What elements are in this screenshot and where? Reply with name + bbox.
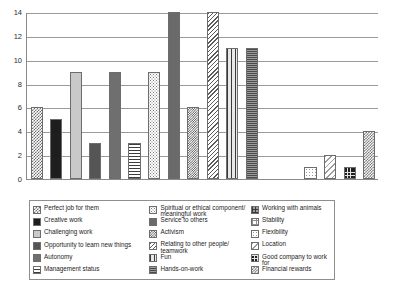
- legend-item[interactable]: Activism: [149, 228, 251, 240]
- y-axis-tick-label: 0: [18, 176, 22, 184]
- legend-item[interactable]: Relating to other people/ teamwork: [149, 240, 251, 252]
- legend-item-label: Challenging work: [44, 228, 92, 235]
- legend-item-label: Opportunity to learn new things: [44, 241, 131, 248]
- bar: [70, 72, 82, 179]
- y-axis-tick-label: 2: [18, 152, 22, 160]
- bar: [31, 107, 43, 179]
- legend-swatch-icon: [33, 218, 41, 226]
- bar: [148, 72, 160, 179]
- legend-item-label: Management status: [44, 265, 99, 272]
- legend-item[interactable]: Challenging work: [33, 228, 149, 240]
- bar: [226, 48, 238, 179]
- y-axis-tick-label: 12: [14, 33, 22, 41]
- legend-swatch-icon: [251, 218, 259, 226]
- legend-swatch-icon: [251, 242, 259, 250]
- legend-swatch-icon: [33, 242, 41, 250]
- plot-area-wrapper: 02468101214: [0, 0, 400, 196]
- legend-swatch-icon: [149, 218, 157, 226]
- legend-item[interactable]: Autonomy: [33, 253, 149, 265]
- bar: [344, 167, 356, 179]
- legend-item[interactable]: Creative work: [33, 216, 149, 228]
- y-axis: 02468101214: [0, 0, 26, 196]
- legend-column: Perfect job for themCreative workChallen…: [33, 204, 149, 277]
- legend-item[interactable]: Management status: [33, 265, 149, 277]
- y-axis-tick-label: 8: [18, 81, 22, 89]
- y-axis-tick-label: 14: [14, 9, 22, 17]
- legend-item-label: Financial rewards: [262, 265, 311, 272]
- legend-item-label: Stability: [262, 216, 284, 223]
- legend-swatch-icon: [149, 254, 157, 262]
- legend-swatch-icon: [149, 266, 157, 274]
- legend-item-label: Perfect job for them: [44, 204, 99, 211]
- legend-item[interactable]: Fun: [149, 253, 251, 265]
- bar: [207, 12, 219, 179]
- legend-swatch-icon: [33, 206, 41, 214]
- legend-item[interactable]: Working with animals: [251, 204, 332, 216]
- bar: [304, 167, 316, 179]
- legend-item[interactable]: Financial rewards: [251, 265, 332, 277]
- legend-swatch-icon: [251, 230, 259, 238]
- bar: [187, 107, 199, 179]
- y-axis-tick-label: 10: [14, 57, 22, 65]
- bar: [363, 131, 375, 179]
- bar: [109, 72, 121, 179]
- legend-item-label: Service to others: [160, 216, 207, 223]
- bar-series: [27, 13, 378, 179]
- legend-swatch-icon: [251, 254, 259, 262]
- legend-item[interactable]: Location: [251, 240, 332, 252]
- legend-item[interactable]: Hands-on-work: [149, 265, 251, 277]
- bar: [89, 143, 101, 179]
- legend-item[interactable]: Opportunity to learn new things: [33, 241, 149, 253]
- legend-swatch-icon: [149, 242, 157, 250]
- legend-item[interactable]: Flexibility: [251, 228, 332, 240]
- legend-item-label: Fun: [160, 253, 171, 260]
- bar: [128, 143, 140, 179]
- legend-swatch-icon: [33, 254, 41, 262]
- bar: [50, 119, 62, 179]
- legend-item-label: Working with animals: [262, 204, 321, 211]
- legend-item[interactable]: Stability: [251, 216, 332, 228]
- legend-column: Spiritual or ethical component/ meaningf…: [149, 204, 251, 277]
- legend-item[interactable]: Service to others: [149, 216, 251, 228]
- legend-swatch-icon: [33, 266, 41, 274]
- legend-item-label: Location: [262, 240, 286, 247]
- legend-swatch-icon: [251, 266, 259, 274]
- legend-item-label: Flexibility: [262, 228, 288, 235]
- legend-swatch-icon: [251, 206, 259, 214]
- chart-figure: 02468101214 Perfect job for themCreative…: [0, 0, 400, 300]
- bar: [168, 12, 180, 179]
- bar: [324, 155, 336, 179]
- legend-column: Working with animalsStabilityFlexibility…: [251, 204, 332, 277]
- y-axis-tick-label: 6: [18, 104, 22, 112]
- legend-swatch-icon: [33, 230, 41, 238]
- y-axis-tick-label: 4: [18, 128, 22, 136]
- legend-item[interactable]: Good company to work for: [251, 253, 332, 265]
- legend-item-label: Creative work: [44, 216, 83, 223]
- legend-item-label: Hands-on-work: [160, 265, 203, 272]
- legend-item[interactable]: Spiritual or ethical component/ meaningf…: [149, 204, 251, 216]
- legend-swatch-icon: [149, 230, 157, 238]
- bar: [246, 48, 258, 179]
- plot-area: [26, 13, 378, 180]
- legend-swatch-icon: [149, 206, 157, 214]
- legend-item-label: Autonomy: [44, 253, 72, 260]
- legend-item[interactable]: Perfect job for them: [33, 204, 149, 216]
- chart-legend: Perfect job for themCreative workChallen…: [29, 200, 335, 280]
- legend-item-label: Activism: [160, 228, 183, 235]
